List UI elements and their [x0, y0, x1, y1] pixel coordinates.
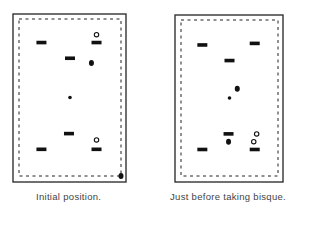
caption-before-bisque: Just before taking bisque. [170, 191, 286, 202]
hoop-bottom-right [250, 148, 260, 152]
caption-initial-position: Initial position. [36, 191, 101, 202]
black-ball-corner [119, 173, 124, 179]
center-peg [68, 96, 72, 100]
black-ball [235, 86, 240, 92]
open-ball [94, 33, 98, 37]
open-ball [254, 132, 258, 136]
center-peg [228, 96, 232, 100]
hoop-center-upper [225, 59, 235, 63]
hoop-top-left [197, 43, 207, 47]
hoop-bottom-right [92, 148, 102, 152]
hoop-center-upper [65, 56, 75, 60]
hoop-bottom-left [197, 148, 207, 152]
hoop-top-right [250, 42, 260, 46]
black-ball [226, 139, 231, 145]
hoop-center-lower [64, 132, 74, 136]
hoop-top-left [36, 41, 46, 45]
black-ball [89, 60, 94, 66]
hoop-center-lower [224, 132, 234, 136]
hoop-top-right [92, 41, 102, 45]
hoop-bottom-left [36, 148, 46, 152]
open-ball [94, 138, 98, 142]
open-ball [252, 139, 256, 143]
